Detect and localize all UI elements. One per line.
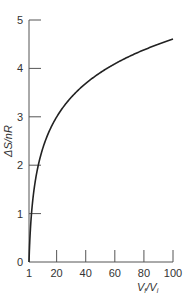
ticks: 012345120406080100 bbox=[17, 14, 182, 279]
curve-line bbox=[29, 39, 173, 262]
y-tick-label: 5 bbox=[17, 14, 23, 26]
chart-svg: 012345120406080100 ΔS/nR Vf/Vi bbox=[0, 0, 185, 307]
axes bbox=[29, 20, 173, 262]
y-axis-label: ΔS/nR bbox=[2, 125, 14, 158]
x-axis-label: Vf/Vi bbox=[137, 281, 159, 294]
x-tick-label: 20 bbox=[51, 267, 63, 279]
entropy-chart: 012345120406080100 ΔS/nR Vf/Vi bbox=[0, 0, 185, 307]
x-tick-label: 60 bbox=[109, 267, 121, 279]
x-tick-label: 100 bbox=[164, 267, 182, 279]
y-tick-label: 0 bbox=[17, 256, 23, 268]
y-tick-label: 4 bbox=[17, 62, 23, 74]
x-tick-label: 1 bbox=[26, 267, 32, 279]
y-tick-label: 3 bbox=[17, 111, 23, 123]
x-tick-label: 40 bbox=[80, 267, 92, 279]
x-tick-label: 80 bbox=[138, 267, 150, 279]
y-tick-label: 1 bbox=[17, 208, 23, 220]
y-tick-label: 2 bbox=[17, 159, 23, 171]
